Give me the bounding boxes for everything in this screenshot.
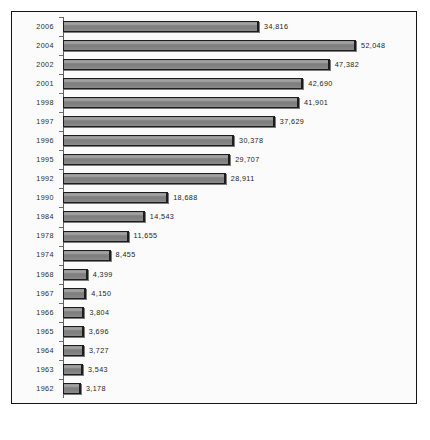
bar-value-label: 18,688 bbox=[173, 194, 197, 201]
bar-category-label: 1965 bbox=[12, 328, 59, 335]
bar bbox=[63, 231, 129, 242]
bar-value-label: 41,901 bbox=[304, 99, 328, 106]
bar-row: 197811,655 bbox=[12, 228, 412, 245]
bar-category-label: 1978 bbox=[12, 232, 59, 239]
bar-value-label: 30,378 bbox=[239, 137, 263, 144]
bar-category-label: 1997 bbox=[12, 118, 59, 125]
bar bbox=[63, 288, 86, 299]
bar-value-label: 3,696 bbox=[89, 328, 109, 335]
bar-track: 14,543 bbox=[63, 208, 412, 225]
bar-track: 18,688 bbox=[63, 189, 412, 206]
bar-track: 41,901 bbox=[63, 94, 412, 111]
bar-value-label: 3,543 bbox=[88, 366, 108, 373]
bar-row: 198414,543 bbox=[12, 208, 412, 225]
bar-category-label: 1974 bbox=[12, 251, 59, 258]
bar-category-label: 1966 bbox=[12, 309, 59, 316]
bar-row: 19623,178 bbox=[12, 380, 412, 397]
bar-category-label: 1998 bbox=[12, 99, 59, 106]
bar-category-label: 1992 bbox=[12, 175, 59, 182]
bar bbox=[63, 40, 356, 51]
bar bbox=[63, 364, 83, 375]
bar-row: 200634,816 bbox=[12, 18, 412, 35]
bar-row: 200142,690 bbox=[12, 75, 412, 92]
bar-row: 199228,911 bbox=[12, 170, 412, 187]
bar bbox=[63, 78, 303, 89]
bar-category-label: 2004 bbox=[12, 42, 59, 49]
bar-track: 37,629 bbox=[63, 113, 412, 130]
bar-row: 19674,150 bbox=[12, 285, 412, 302]
bar bbox=[63, 97, 299, 108]
bar bbox=[63, 116, 275, 127]
bar-category-label: 1996 bbox=[12, 137, 59, 144]
bar-track: 11,655 bbox=[63, 228, 412, 245]
bar-value-label: 42,690 bbox=[308, 80, 332, 87]
bar bbox=[63, 211, 145, 222]
bar-category-label: 1968 bbox=[12, 271, 59, 278]
bar-row: 199841,901 bbox=[12, 94, 412, 111]
bar-row: 19663,804 bbox=[12, 304, 412, 321]
bar-category-label: 1967 bbox=[12, 290, 59, 297]
bar-track: 3,804 bbox=[63, 304, 412, 321]
bar-category-label: 1990 bbox=[12, 194, 59, 201]
bar bbox=[63, 383, 81, 394]
bar bbox=[63, 345, 84, 356]
bar bbox=[63, 269, 88, 280]
bar-track: 4,399 bbox=[63, 266, 412, 283]
bar bbox=[63, 21, 259, 32]
bar bbox=[63, 250, 111, 261]
bar-track: 52,048 bbox=[63, 37, 412, 54]
bar-row: 199737,629 bbox=[12, 113, 412, 130]
bar-track: 4,150 bbox=[63, 285, 412, 302]
bar-track: 29,707 bbox=[63, 151, 412, 168]
bar-track: 3,543 bbox=[63, 361, 412, 378]
bar-row: 199630,378 bbox=[12, 132, 412, 149]
bar bbox=[63, 59, 330, 70]
bar-category-label: 1964 bbox=[12, 347, 59, 354]
bar-track: 8,455 bbox=[63, 247, 412, 264]
bar-value-label: 4,150 bbox=[91, 290, 111, 297]
bar-value-label: 8,455 bbox=[116, 251, 136, 258]
bar-value-label: 47,382 bbox=[335, 61, 359, 68]
bar-value-label: 11,655 bbox=[134, 232, 158, 239]
bar-category-label: 1963 bbox=[12, 366, 59, 373]
bar-value-label: 34,816 bbox=[264, 23, 288, 30]
bar-track: 3,178 bbox=[63, 380, 412, 397]
bar-track: 34,816 bbox=[63, 18, 412, 35]
bar-track: 28,911 bbox=[63, 170, 412, 187]
bar-row: 199018,688 bbox=[12, 189, 412, 206]
bar-category-label: 2002 bbox=[12, 61, 59, 68]
bar-category-label: 2006 bbox=[12, 23, 59, 30]
bar-row: 19748,455 bbox=[12, 247, 412, 264]
bar bbox=[63, 154, 230, 165]
bar-track: 42,690 bbox=[63, 75, 412, 92]
bar-category-label: 1995 bbox=[12, 156, 59, 163]
chart-frame: 200634,816200452,048200247,382200142,690… bbox=[11, 11, 417, 404]
bar-track: 30,378 bbox=[63, 132, 412, 149]
bar-value-label: 3,178 bbox=[86, 385, 106, 392]
bar-row: 199529,707 bbox=[12, 151, 412, 168]
bar-row: 200452,048 bbox=[12, 37, 412, 54]
bar bbox=[63, 307, 84, 318]
bar-value-label: 28,911 bbox=[231, 175, 255, 182]
bar-value-label: 37,629 bbox=[280, 118, 304, 125]
bar-row: 19684,399 bbox=[12, 266, 412, 283]
bar-category-label: 1962 bbox=[12, 385, 59, 392]
bar bbox=[63, 192, 168, 203]
bar bbox=[63, 326, 84, 337]
bar-value-label: 3,727 bbox=[89, 347, 109, 354]
bar-row: 200247,382 bbox=[12, 56, 412, 73]
bar-value-label: 29,707 bbox=[235, 156, 259, 163]
bar-track: 3,727 bbox=[63, 342, 412, 359]
bar bbox=[63, 173, 226, 184]
bar-track: 47,382 bbox=[63, 56, 412, 73]
bar-row: 19633,543 bbox=[12, 361, 412, 378]
bar-value-label: 14,543 bbox=[150, 213, 174, 220]
bar-track: 3,696 bbox=[63, 323, 412, 340]
bar-category-label: 2001 bbox=[12, 80, 59, 87]
bar-category-label: 1984 bbox=[12, 213, 59, 220]
bar-value-label: 4,399 bbox=[93, 271, 113, 278]
bar-chart-plot-area: 200634,816200452,048200247,382200142,690… bbox=[12, 12, 416, 403]
bar-value-label: 3,804 bbox=[89, 309, 109, 316]
bar bbox=[63, 135, 234, 146]
bar-row: 19643,727 bbox=[12, 342, 412, 359]
